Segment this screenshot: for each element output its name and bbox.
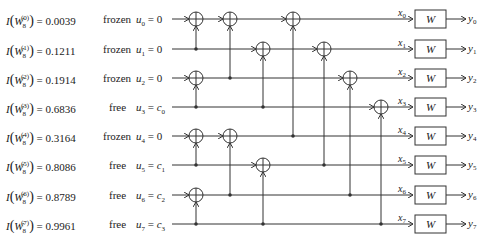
xor-node — [343, 71, 357, 197]
output-label: y7 — [467, 217, 477, 231]
channel-block-5: x5Wy5 — [397, 153, 477, 174]
codeword-label: x2 — [397, 66, 406, 79]
codeword-label: x0 — [397, 7, 406, 20]
channel-W-label: W — [426, 218, 436, 230]
xor-node — [189, 71, 203, 109]
xor-node — [374, 100, 388, 226]
channel-W-label: W — [426, 189, 436, 201]
channel-W-label: W — [426, 130, 436, 142]
channel-block-3: x3Wy3 — [397, 95, 477, 116]
polar-encoder-diagram: I(W8(0)) = 0.0039frozenu0 = 0I(W8(1)) = … — [0, 0, 500, 248]
xor-node — [286, 12, 300, 138]
codeword-label: x1 — [397, 37, 406, 50]
channel-block-1: x1Wy1 — [397, 37, 477, 58]
xor-node — [189, 12, 203, 51]
output-label: y0 — [467, 12, 477, 26]
codeword-label: x7 — [397, 212, 406, 225]
xor-node — [223, 12, 237, 80]
output-label: y6 — [467, 188, 477, 202]
channel-W-label: W — [426, 101, 436, 113]
codeword-label: x4 — [397, 124, 406, 137]
channel-W-label: W — [426, 72, 436, 84]
channel-W-label: W — [426, 13, 436, 25]
codeword-label: x3 — [397, 95, 406, 108]
codeword-label: x6 — [397, 183, 406, 196]
output-label: y4 — [467, 129, 477, 143]
channel-W-label: W — [426, 43, 436, 55]
output-label: y3 — [467, 100, 477, 114]
xor-node — [317, 42, 331, 167]
xor-node — [189, 188, 203, 226]
codeword-label: x5 — [397, 153, 406, 166]
channel-block-0: x0Wy0 — [397, 7, 477, 28]
channel-W-label: W — [426, 159, 436, 171]
xor-node — [189, 129, 203, 167]
output-label: y5 — [467, 158, 477, 172]
channel-block-2: x2Wy2 — [397, 66, 477, 87]
channel-block-7: x7Wy7 — [397, 212, 477, 233]
output-label: y2 — [467, 71, 477, 85]
channel-block-4: x4Wy4 — [397, 124, 477, 145]
channel-block-6: x6Wy6 — [397, 183, 477, 204]
xor-node — [256, 42, 270, 109]
encoder-circuit: x0Wy0x1Wy1x2Wy2x3Wy3x4Wy4x5Wy5x6Wy6x7Wy7 — [0, 0, 500, 248]
xor-node — [223, 129, 237, 197]
xor-node — [256, 158, 270, 226]
output-label: y1 — [467, 42, 477, 56]
